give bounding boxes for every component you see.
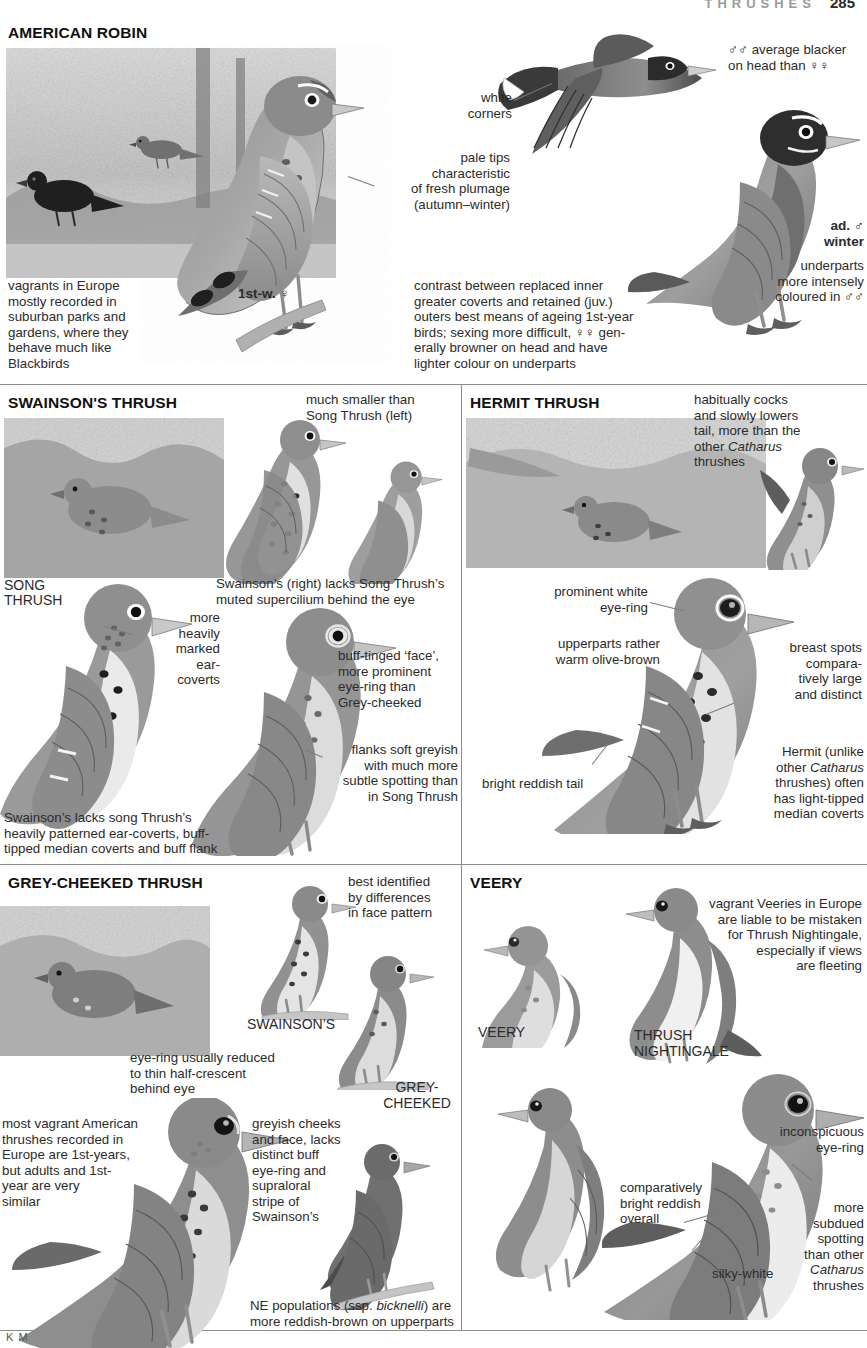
illustration-greycheeked-habitat [0,906,210,1056]
caption-vagrants-europe: vagrants in Europe mostly recorded in su… [8,278,158,371]
caption-silky-white: silky-white [712,1266,832,1282]
caption-bright-reddish-tail: bright reddish tail [482,776,642,792]
caption-median-coverts-italic: Catharus [810,760,864,775]
section-title-veery: VEERY [470,874,522,892]
caption-upperparts-olive-brown: upperparts rather warm olive-brown [508,636,660,667]
section-american-robin: AMERICAN ROBIN [0,0,867,384]
section-title-hermit-thrush: HERMIT THRUSH [470,394,600,412]
caption-inconspicuous-eye-ring: inconspicuous eye-ring [734,1124,864,1155]
caption-pale-tips: pale tips characteristic of fresh plumag… [376,150,510,212]
caption-lacks-supercilium: Swainson’s (right) lacks Song Thrush’s m… [216,576,462,607]
caption-most-vagrant-american: most vagrant American thrushes recorded … [2,1116,158,1209]
label-grey-cheeked: GREY- CHEEKED [372,1080,462,1111]
label-veery: VEERY [478,1024,568,1040]
caption-best-identified: best identified by differences in face p… [348,874,468,921]
caption-bright-reddish-overall: comparatively bright reddish overall [620,1180,750,1227]
caption-underparts-intense: underparts more intensely coloured in ♂♂ [736,258,864,305]
caption-median-coverts-part2: thrushes) often has light-tipped median … [774,775,864,821]
caption-ne-populations: NE populations (ssp. bicknelli) are more… [250,1298,470,1329]
section-title-swainsons-thrush: SWAINSON'S THRUSH [8,394,177,412]
section-hermit-thrush: HERMIT THRUSH habituall [462,384,867,864]
section-title-grey-cheeked-thrush: GREY-CHEEKED THRUSH [8,874,203,892]
illustration-bicknelli [316,1140,442,1310]
illustration-robin-first-winter-female [140,44,390,364]
illustration-song-thrush-and-swainsons-pair [222,404,452,584]
section-title-american-robin: AMERICAN ROBIN [8,24,147,42]
section-swainsons-thrush: SWAINSON'S THRUSH [0,384,461,864]
caption-much-smaller: much smaller than Song Thrush (left) [306,392,456,423]
caption-white-corners: white corners [440,90,512,121]
caption-adult-male-winter: ad. ♂ winter [752,218,864,250]
caption-ne-populations-italic: bicknelli [376,1298,423,1313]
caption-swainsons-summary: Swainson’s lacks song Thrush’s heavily p… [4,810,304,857]
caption-ne-populations-part1: NE populations (ssp. [250,1298,376,1313]
caption-buff-tinged-face: buff-tinged ‘face’, more prominent eye-r… [338,648,458,710]
illustration-swainsons-habitat [4,418,224,578]
caption-males-blacker: ♂♂ average blacker on head than ♀♀ [728,42,867,73]
caption-more-subdued-part1: more subdued spotting than other [804,1200,864,1262]
label-thrush-nightingale: THRUSH NIGHTINGALE [634,1028,774,1059]
caption-ageing-contrast: contrast between replaced inner greater … [414,278,674,371]
caption-vagrant-veeries: vagrant Veeries in Europe are liable to … [702,896,862,974]
caption-breast-spots: breast spots compara- tively large and d… [734,640,862,702]
section-grey-cheeked-thrush: GREY-CHEEKED THRUSH [0,864,461,1330]
caption-cocks-tail-part2: thrushes [694,454,745,469]
illustration-hermit-cocked-tail [758,442,867,570]
caption-eye-ring-reduced: eye-ring usually reduced to thin half-cr… [130,1050,350,1097]
caption-prominent-white-eye-ring: prominent white eye-ring [500,584,648,615]
caption-first-winter-female: 1st-w. ♀ [238,286,348,302]
label-song-thrush: SONG THRUSH [4,578,104,609]
caption-flanks-soft-greyish: flanks soft greyish with much more subtl… [318,742,458,804]
artist-signature: K M [6,1331,29,1343]
section-veery: VEERY [462,864,867,1330]
caption-median-coverts: Hermit (unlike other Catharus thrushes) … [734,744,864,822]
